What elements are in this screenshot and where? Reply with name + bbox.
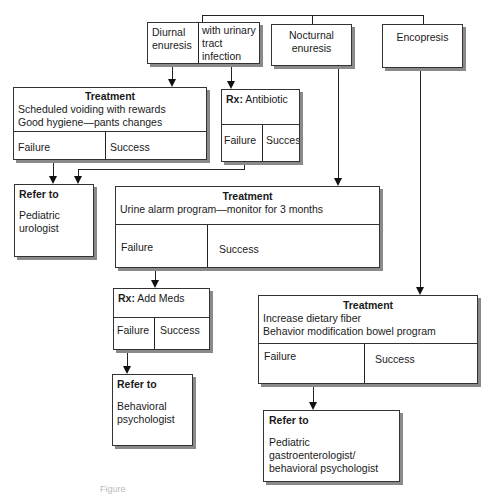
failure-cell: Failure xyxy=(14,132,105,159)
connector xyxy=(312,15,313,24)
nocturnal-enuresis-box: Nocturnal enuresis xyxy=(271,24,352,66)
figure-caption: Figure xyxy=(100,484,126,494)
connector xyxy=(231,64,232,82)
diurnal-label: Diurnal enuresis xyxy=(148,23,198,63)
nocturnal-text: Nocturnal enuresis xyxy=(289,29,334,54)
refer-behavioral-box: Refer to Behavioral psychologist xyxy=(112,374,193,446)
refer-line: Behavioral xyxy=(117,400,188,413)
success-cell: Success xyxy=(106,132,206,159)
encopresis-treatment-box: Treatment Increase dietary fiber Behavio… xyxy=(258,295,478,384)
drug-label: Add Meds xyxy=(135,292,185,304)
nocturnal-treatment-box: Treatment Urine alarm program—monitor fo… xyxy=(115,186,380,268)
failure-cell: Failure xyxy=(259,344,364,383)
refer-gastro-box: Refer to Pediatric gastroenterologist/ b… xyxy=(263,410,400,482)
treatment-title: Treatment xyxy=(18,90,202,103)
rx-label: Rx: xyxy=(118,292,135,304)
refer-title: Refer to xyxy=(117,378,188,391)
arrow-down-icon xyxy=(416,287,424,295)
connector xyxy=(53,160,54,176)
diurnal-text: Diurnal enuresis xyxy=(152,26,192,51)
connector xyxy=(420,68,421,288)
drug-label: Antibiotic xyxy=(243,93,288,105)
arrow-down-icon xyxy=(74,176,82,184)
failure-cell: Failure xyxy=(114,318,154,349)
refer-line: psychologist xyxy=(117,413,188,426)
connector xyxy=(127,350,128,366)
rx-label: Rx: xyxy=(226,93,243,105)
connector xyxy=(172,64,173,80)
connector xyxy=(155,268,156,280)
refer-urologist-box: Refer to Pediatric urologist xyxy=(14,184,94,257)
refer-line: Pediatric xyxy=(19,209,89,222)
arrow-down-icon xyxy=(227,81,235,89)
treatment-line: Increase dietary fiber xyxy=(263,312,473,325)
treatment-title: Treatment xyxy=(120,190,375,203)
failure-cell: Failure xyxy=(222,125,262,161)
add-meds-box: Rx: Add Meds Failure Success xyxy=(113,288,210,350)
treatment-line: Scheduled voiding with rewards xyxy=(18,103,202,116)
arrow-down-icon xyxy=(49,176,57,184)
arrow-down-icon xyxy=(168,79,176,87)
arrow-down-icon xyxy=(123,366,131,374)
success-cell: Success xyxy=(263,125,299,161)
diurnal-treatment-box: Treatment Scheduled voiding with rewards… xyxy=(13,87,207,160)
connector xyxy=(338,66,339,179)
failure-cell: Failure xyxy=(116,225,207,267)
refer-line: behavioral psychologist xyxy=(269,462,394,475)
success-cell: Success xyxy=(365,344,477,383)
success-cell: Success xyxy=(208,225,379,267)
encopresis-text: Encopresis xyxy=(397,31,449,43)
top-connector xyxy=(202,15,424,16)
arrow-down-icon xyxy=(334,178,342,186)
uti-text: with urinary tract infection xyxy=(202,24,256,62)
refer-title: Refer to xyxy=(269,414,394,427)
arrow-down-icon xyxy=(151,280,159,288)
success-cell: Success xyxy=(155,318,209,349)
uti-label: with urinary tract infection xyxy=(199,23,259,63)
refer-line: Pediatric gastroenterologist/ xyxy=(269,436,394,462)
connector xyxy=(423,15,424,24)
connector xyxy=(78,169,245,170)
refer-title: Refer to xyxy=(19,188,89,201)
treatment-line: Behavior modification bowel program xyxy=(263,325,473,338)
antibiotic-box: Rx: Antibiotic Failure Success xyxy=(221,89,300,162)
diurnal-enuresis-box: Diurnal enuresis with urinary tract infe… xyxy=(147,22,260,64)
encopresis-box: Encopresis xyxy=(382,24,463,68)
arrow-down-icon xyxy=(309,402,317,410)
treatment-line: Urine alarm program—monitor for 3 months xyxy=(120,203,375,216)
connector xyxy=(313,384,314,402)
refer-line: urologist xyxy=(19,222,89,235)
treatment-title: Treatment xyxy=(263,299,473,312)
treatment-line: Good hygiene—pants changes xyxy=(18,116,202,129)
